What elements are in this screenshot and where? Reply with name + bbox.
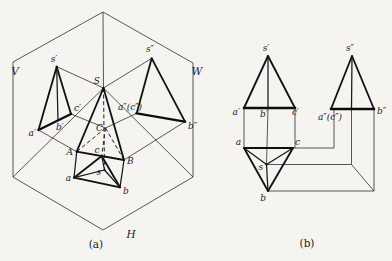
ray-B-btop <box>120 160 124 187</box>
edge-C-B-hidden <box>106 128 125 160</box>
front-edge-s-c <box>57 67 71 114</box>
side-b-median <box>352 56 353 109</box>
dot-b-sfront <box>267 55 269 57</box>
label-a-top: a <box>66 173 71 183</box>
label-b-c-front: c′ <box>292 107 299 117</box>
dot-sfront <box>56 66 58 68</box>
label-b-b-front: b′ <box>260 109 268 119</box>
label-b-s-top: s <box>258 162 263 172</box>
edge-S-B <box>104 88 125 160</box>
label-c-front: c′ <box>74 103 81 113</box>
label-plane-W: W <box>192 65 204 77</box>
label-ac-side: a″(c″) <box>118 102 143 112</box>
label-plane-H: H <box>125 228 136 240</box>
dot-b-btop <box>267 190 269 192</box>
label-b-s-side: s″ <box>346 43 355 53</box>
side-base-ac-b <box>137 113 185 121</box>
label-a-front: a′ <box>29 128 36 138</box>
front-b-edge-s-c <box>268 56 295 108</box>
ray-A-atop <box>74 152 77 178</box>
label-b-b-top: b <box>260 193 266 203</box>
label-s-side: s″ <box>146 44 155 54</box>
label-B: B <box>126 156 134 166</box>
fold-axis-vertical <box>103 12 104 88</box>
transfer-miter-45 <box>352 165 375 192</box>
label-s-top: s <box>96 167 101 177</box>
label-s-front: s′ <box>51 54 58 64</box>
label-b-a-front: a′ <box>233 107 240 117</box>
dot-b-atop <box>243 147 245 149</box>
projection-box <box>13 12 193 230</box>
dot-b-stop <box>265 163 267 165</box>
top-b-edge-a-b <box>244 148 268 191</box>
dot-sside <box>151 57 153 59</box>
label-b-b-side: b″ <box>377 106 387 116</box>
ray-B-bside <box>124 122 185 160</box>
label-b-front: b′ <box>56 122 64 132</box>
dot-B <box>123 159 125 161</box>
side-edge-s-b <box>152 58 185 121</box>
dot-atop <box>73 177 75 179</box>
dot-A <box>76 151 78 153</box>
side-view-projection <box>137 58 185 121</box>
side-view-b <box>331 56 374 109</box>
label-c-top: c <box>94 145 99 155</box>
label-b-side: b″ <box>188 121 198 131</box>
label-A: A <box>66 147 74 157</box>
label-b-ac-side: a″(c″) <box>318 112 343 122</box>
front-view-projection <box>39 67 72 130</box>
label-b-s-front: s′ <box>263 43 270 53</box>
dot-btop <box>119 186 121 188</box>
front-b-edge-s-a <box>244 56 268 108</box>
dot-b-ctop <box>292 147 294 149</box>
panel-b: s′ a′ b′ c′ s″ a″(c″) b″ a c s b (b) <box>233 43 387 249</box>
label-b-top: b <box>123 186 129 196</box>
edge-A-B <box>77 152 124 160</box>
panel-a: V W H S A B C s′ a′ b′ c′ a″(c″) b″ s″ a… <box>11 12 203 250</box>
top-b-edge-c-b <box>268 148 293 191</box>
dot-S <box>102 87 104 89</box>
dot-b-sside <box>351 55 353 57</box>
front-edge-s-a <box>39 67 57 130</box>
edge-S-A <box>77 88 104 152</box>
labels-a: V W H S A B C s′ a′ b′ c′ a″(c″) b″ s″ a… <box>11 44 203 250</box>
caption-a: (a) <box>89 238 103 250</box>
top-edge-b-c <box>102 156 120 187</box>
side-b-edge-s-ac <box>331 56 352 109</box>
top-b-edge-s-a <box>244 148 267 165</box>
label-C: C <box>96 123 103 133</box>
front-view-b <box>244 56 295 108</box>
dot-stop <box>103 169 105 171</box>
label-plane-V: V <box>11 65 20 77</box>
construction-lines-b <box>244 108 374 191</box>
labels-b: s′ a′ b′ c′ s″ a″(c″) b″ a c s b (b) <box>233 43 387 249</box>
top-view-b <box>244 148 293 191</box>
label-b-c-top: c <box>295 137 300 147</box>
ray-C-acside <box>106 113 137 128</box>
fold-axis-left <box>13 88 104 177</box>
front-median-s-b <box>57 67 58 121</box>
figure-canvas: V W H S A B C s′ a′ b′ c′ a″(c″) b″ s″ a… <box>0 0 392 261</box>
front-base-a-c <box>39 114 72 130</box>
caption-b: (b) <box>300 237 315 249</box>
label-S: S <box>94 76 100 86</box>
side-b-edge-s-b <box>352 56 374 109</box>
label-b-a-top: a <box>236 137 241 147</box>
